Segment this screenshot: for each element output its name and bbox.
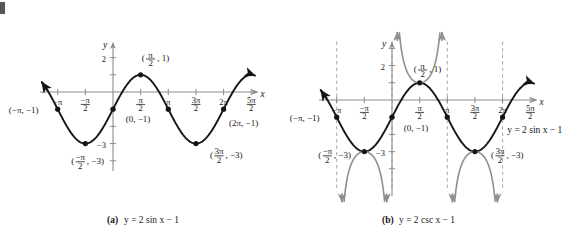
x-tick-label-2-denominator: 2 xyxy=(139,103,143,113)
x-tick-label-6-denominator: 2 xyxy=(528,111,532,121)
point-label-2: (0, −1) xyxy=(404,123,429,133)
y-tick-label-1: −3 xyxy=(97,140,106,150)
point-label-5-open-paren: ( xyxy=(491,150,494,160)
key-point-6 xyxy=(221,107,226,112)
key-point-0 xyxy=(55,107,60,112)
x-tick-label-4-denominator: 2 xyxy=(473,111,477,121)
x-tick-label-1-denominator: 2 xyxy=(83,103,87,113)
caption-tag-a: (a) xyxy=(107,215,118,226)
point-label-1: (−π2, −3) xyxy=(71,152,104,170)
point-label-3-y-value: , 1) xyxy=(429,64,441,74)
key-point-1 xyxy=(83,141,88,146)
sine-curve-annotation: y = 2 sin x − 1 xyxy=(507,125,562,135)
key-point-3 xyxy=(417,80,422,85)
point-label-5-y-value: , −3) xyxy=(225,150,242,160)
key-point-1 xyxy=(362,149,367,154)
point-label-0: (−π, −1) xyxy=(9,105,39,115)
point-label-2: (0, −1) xyxy=(126,114,151,124)
key-point-5 xyxy=(472,149,477,154)
trig-figure: yx−π−π2π2π3π22π5π22−3(−π, −1)(−π2, −3)(0… xyxy=(0,0,579,246)
point-label-3: (π2, 1) xyxy=(142,50,170,68)
point-label-1-x-fraction-denominator: 2 xyxy=(78,161,83,171)
point-label-5: (3π2, −3) xyxy=(210,146,243,164)
point-label-5-open-paren: ( xyxy=(210,150,213,160)
point-label-3: (π2, 1) xyxy=(414,61,442,79)
key-point-2 xyxy=(389,115,394,120)
caption-tag-b: (b) xyxy=(382,215,394,226)
key-point-2 xyxy=(110,107,115,112)
cosecant-branch-2 xyxy=(455,152,495,202)
x-axis-label: x xyxy=(260,89,266,99)
panel-caption-b: (b)y = 2 csc x − 1 xyxy=(382,215,455,226)
point-label-5-y-value: , −3) xyxy=(506,150,523,160)
key-point-6 xyxy=(500,115,505,120)
point-label-3-x-fraction-denominator: 2 xyxy=(420,69,425,79)
y-tick-label-1: −3 xyxy=(376,148,385,158)
point-label-6: (2π, −1) xyxy=(229,118,258,128)
page-edge-artifact xyxy=(0,2,5,14)
point-label-0: (−π, −1) xyxy=(290,113,320,123)
key-point-0 xyxy=(334,115,339,120)
y-tick-label-0: 2 xyxy=(102,54,106,64)
x-tick-label-4-denominator: 2 xyxy=(194,103,198,113)
y-axis-label: y xyxy=(381,39,387,49)
y-tick-label-0: 2 xyxy=(381,62,385,72)
point-label-1-y-value: , −3) xyxy=(87,156,104,166)
sine-curve-left-arrow xyxy=(42,82,48,91)
point-label-5: (3π2, −3) xyxy=(491,146,524,164)
point-label-3-y-value: , 1) xyxy=(157,53,169,63)
y-axis-label: y xyxy=(102,40,108,50)
point-label-1-y-value: , −3) xyxy=(334,150,351,160)
panel-b: x = −πx = 0x = πx = 2πyx−π−π2π2π3π22π5π2… xyxy=(290,0,563,202)
point-label-1-open-paren: ( xyxy=(71,156,74,166)
point-label-3-open-paren: ( xyxy=(414,64,417,74)
point-label-3-open-paren: ( xyxy=(142,53,145,63)
point-label-1-x-fraction-denominator: 2 xyxy=(325,155,330,165)
x-axis-label: x xyxy=(539,97,545,107)
sine-curve-left-arrow xyxy=(321,90,327,99)
point-label-3-x-fraction-denominator: 2 xyxy=(148,58,153,68)
x-tick-label-6-denominator: 2 xyxy=(249,103,253,113)
panel-caption-a: (a)y = 2 sin x − 1 xyxy=(107,215,179,226)
x-tick-label-2-denominator: 2 xyxy=(418,111,422,121)
key-point-4 xyxy=(166,107,171,112)
panel-a: yx−π−π2π2π3π22π5π22−3(−π, −1)(−π2, −3)(0… xyxy=(9,40,266,171)
figure-canvas: yx−π−π2π2π3π22π5π22−3(−π, −1)(−π2, −3)(0… xyxy=(0,0,579,246)
point-label-1-open-paren: ( xyxy=(318,150,321,160)
key-point-5 xyxy=(193,141,198,146)
caption-equation-b: y = 2 csc x − 1 xyxy=(399,215,455,225)
caption-equation-a: y = 2 sin x − 1 xyxy=(124,215,179,225)
key-point-4 xyxy=(445,115,450,120)
point-label-5-x-fraction-denominator: 2 xyxy=(498,155,503,165)
x-tick-label-1-denominator: 2 xyxy=(362,111,366,121)
point-label-5-x-fraction-denominator: 2 xyxy=(217,155,222,165)
point-label-1: (−π2, −3) xyxy=(318,146,351,164)
key-point-3 xyxy=(138,72,143,77)
